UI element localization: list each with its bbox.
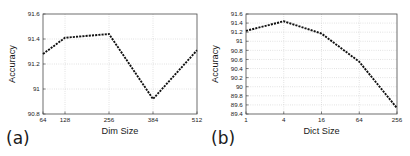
chart-panel-a: 90.89191.291.491.664128256384512Dim Size… xyxy=(0,0,205,156)
xtick-label: 128 xyxy=(60,116,71,123)
ytick-label: 90.8 xyxy=(28,110,41,117)
xtick-label: 64 xyxy=(356,116,363,123)
panel-label-b: (b) xyxy=(211,128,235,148)
ytick-label: 90.2 xyxy=(231,74,244,81)
y-axis-title: Accuracy xyxy=(7,45,17,83)
ytick-label: 91.2 xyxy=(28,60,41,67)
ytick-label: 91.4 xyxy=(28,35,41,42)
ytick-label: 91 xyxy=(33,85,40,92)
ytick-label: 90.4 xyxy=(231,65,244,72)
xtick-label: 1 xyxy=(244,116,248,123)
xtick-label: 256 xyxy=(392,116,403,123)
ytick-label: 89.8 xyxy=(231,92,244,99)
ytick-label: 91.6 xyxy=(231,10,244,17)
ytick-label: 91.6 xyxy=(28,10,41,17)
xtick-label: 64 xyxy=(40,116,47,123)
xtick-label: 512 xyxy=(192,116,203,123)
ytick-label: 90 xyxy=(236,83,243,90)
xtick-label: 16 xyxy=(318,116,325,123)
ytick-label: 91.4 xyxy=(231,19,244,26)
chart-panel-b: 89.489.689.89090.290.490.690.89191.291.4… xyxy=(205,0,410,156)
figure-container: 90.89191.291.491.664128256384512Dim Size… xyxy=(0,0,410,156)
x-axis-title: Dim Size xyxy=(102,126,139,136)
ytick-label: 89.4 xyxy=(231,110,244,117)
ytick-label: 91 xyxy=(236,37,243,44)
chart-a-svg: 90.89191.291.491.664128256384512Dim Size… xyxy=(0,0,205,156)
x-axis-title: Dict Size xyxy=(303,126,339,136)
ytick-label: 89.6 xyxy=(231,101,244,108)
plot-frame xyxy=(246,14,397,114)
panel-label-a: (a) xyxy=(6,128,30,148)
xtick-label: 4 xyxy=(282,116,286,123)
xtick-label: 384 xyxy=(148,116,159,123)
ytick-label: 90.8 xyxy=(231,47,244,54)
ytick-label: 91.2 xyxy=(231,28,244,35)
xtick-label: 256 xyxy=(104,116,115,123)
y-axis-title: Accuracy xyxy=(210,45,220,83)
ytick-label: 90.6 xyxy=(231,56,244,63)
chart-b-svg: 89.489.689.89090.290.490.690.89191.291.4… xyxy=(205,0,410,156)
